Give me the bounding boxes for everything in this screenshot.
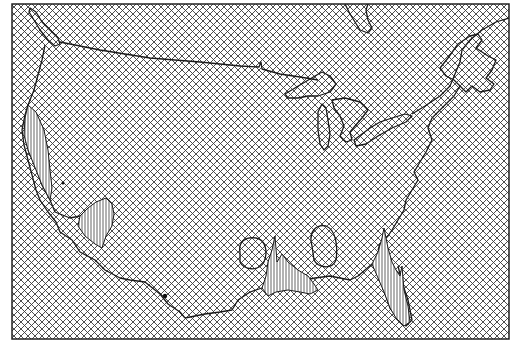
map-svg xyxy=(0,0,516,349)
dot-nevada xyxy=(62,182,65,185)
map-figure xyxy=(0,0,516,349)
dot-pacific-mexico xyxy=(163,294,167,298)
